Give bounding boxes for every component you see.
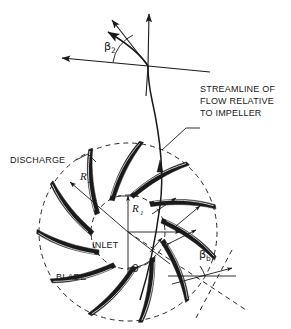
- beta-b-arc: [200, 266, 205, 276]
- beta2-angle-arc: [113, 35, 133, 62]
- absolute-velocity-vector: [112, 20, 148, 66]
- meridional-reference-line: [146, 66, 148, 96]
- streamline-label-line3: TO IMPELLER: [200, 108, 262, 118]
- streamline-label-line2: FLOW RELATIVE: [200, 96, 274, 106]
- inlet-label: INLET: [92, 240, 119, 250]
- r2-subscript: 2: [88, 177, 92, 185]
- blade: [117, 256, 175, 325]
- r2-label: R: [79, 170, 87, 182]
- diagram-canvas: DISCHARGE BLADE INLET STREAMLINE OF FLOW…: [0, 0, 291, 329]
- r1-subscript: 1: [140, 209, 144, 217]
- blade: [71, 147, 116, 216]
- theta-ray: [128, 232, 170, 264]
- streamline-label-line1: STREAMLINE OF: [200, 84, 275, 94]
- blade: [161, 239, 189, 302]
- r1-label: R: [131, 202, 139, 214]
- discharge-label: DISCHARGE: [10, 155, 65, 165]
- discharge-label-leader: [76, 154, 96, 162]
- blade: [93, 140, 160, 203]
- tangent-reference-line: [148, 66, 210, 72]
- beta2-label: β: [104, 40, 111, 53]
- impeller-diagram: DISCHARGE BLADE INLET STREAMLINE OF FLOW…: [0, 0, 291, 329]
- velocity-triangle-group: [62, 14, 210, 96]
- beta-b-subscript: b: [206, 254, 211, 263]
- relative-velocity-arrow-inner: [176, 206, 200, 226]
- beta-b-label: β: [199, 248, 206, 261]
- blade-label: BLADE: [56, 272, 87, 282]
- beta2-subscript: 2: [111, 46, 116, 55]
- meridional-velocity-vector: [148, 14, 149, 66]
- theta-label: θ: [132, 262, 139, 275]
- blade: [148, 179, 217, 231]
- r-label: r: [166, 238, 171, 250]
- tangential-velocity-vector: [62, 58, 148, 66]
- streamline-label-leader: [162, 128, 200, 150]
